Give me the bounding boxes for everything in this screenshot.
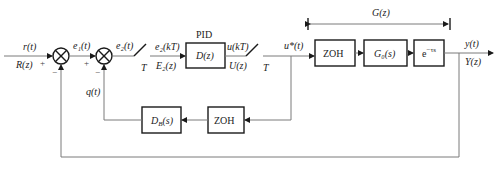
- input-time-label: r(t): [23, 41, 37, 53]
- junction2-minus-sign: −: [95, 67, 100, 77]
- controller-input-time: e₂(kT): [155, 41, 180, 53]
- summing-junction-2: [96, 48, 112, 64]
- ustar-label: u*(t): [284, 40, 304, 52]
- gz-label: G(z): [372, 7, 390, 19]
- controller-output-z: U(z): [229, 60, 247, 72]
- control-block-diagram: r(t) R(z) + − e₁(t) + − e₂(t) T e₂(kT) E…: [0, 0, 502, 169]
- controller-input-z: E₂(z): [155, 60, 177, 72]
- e2-label: e₂(t): [116, 40, 134, 52]
- sampler-switch-1: [134, 44, 146, 56]
- plant-label: G₀(s): [374, 48, 396, 60]
- summing-junction-1: [53, 48, 69, 64]
- controller-output-time: u(kT): [227, 41, 249, 53]
- input-z-label: R(z): [15, 59, 33, 71]
- controller-label: D(z): [195, 50, 214, 62]
- inner-feedback-path: [104, 65, 142, 120]
- q-signal-label: q(t): [86, 86, 101, 98]
- sampler1-period: T: [141, 62, 148, 73]
- zoh-feedback-label: ZOH: [214, 115, 235, 126]
- outer-feedback-path: [61, 53, 459, 157]
- e1-plus-sign: +: [84, 58, 89, 68]
- junction1-minus-sign: −: [52, 67, 57, 77]
- e1-label: e₁(t): [73, 40, 91, 52]
- gz-bracket: [308, 18, 450, 30]
- output-time-label: y(t): [464, 38, 480, 50]
- output-z-label: Y(z): [465, 56, 482, 68]
- sampler2-period: T: [263, 62, 270, 73]
- input-plus-sign: +: [40, 58, 45, 68]
- pid-title: PID: [196, 29, 212, 40]
- zoh-label: ZOH: [323, 48, 344, 59]
